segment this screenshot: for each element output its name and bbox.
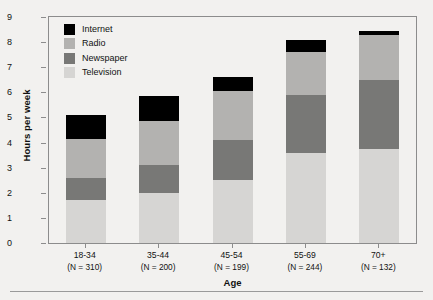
bar-segment-internet (139, 96, 179, 121)
x-tick-label-text: 70+ (333, 250, 423, 262)
bar-segment-radio (139, 121, 179, 165)
legend-label: Newspaper (82, 54, 128, 63)
y-tick-label: 7 (0, 63, 12, 72)
bar-stack (213, 77, 253, 243)
bar-segment-internet (66, 115, 106, 139)
y-tick-mark (41, 143, 46, 144)
bar-segment-television (286, 153, 326, 243)
y-tick-label: 6 (0, 88, 12, 97)
y-tick-mark (41, 243, 46, 244)
bar-segment-television (213, 180, 253, 243)
chart-legend: InternetRadioNewspaperTelevision (64, 22, 128, 80)
legend-item: Newspaper (64, 51, 128, 66)
bar-segment-newspaper (213, 140, 253, 180)
bar-segment-television (66, 200, 106, 243)
y-tick-mark (41, 17, 46, 18)
legend-label: Television (82, 68, 122, 77)
bar-segment-television (139, 193, 179, 243)
bar-segment-newspaper (66, 178, 106, 201)
y-tick-mark (41, 42, 46, 43)
bar-segment-television (359, 149, 399, 243)
x-tick-mark (305, 244, 306, 248)
y-tick-label: 4 (0, 139, 12, 148)
legend-swatch-icon (64, 38, 75, 49)
y-tick-mark (41, 92, 46, 93)
x-tick-label: 70+(N = 132) (333, 250, 423, 273)
bar-stack (359, 31, 399, 243)
bar-stack (66, 115, 106, 243)
bar-segment-radio (66, 139, 106, 178)
legend-swatch-icon (64, 67, 75, 78)
y-axis-title: Hours per week (21, 56, 32, 196)
bar-segment-radio (213, 91, 253, 140)
y-tick-label: 3 (0, 164, 12, 173)
y-tick-label: 1 (0, 214, 12, 223)
bar-segment-internet (213, 77, 253, 91)
legend-item: Television (64, 66, 128, 81)
x-tick-mark (158, 244, 159, 248)
x-tick-mark (85, 244, 86, 248)
bar-stack (286, 40, 326, 243)
bar-segment-internet (286, 40, 326, 53)
bar-segment-radio (286, 52, 326, 95)
y-tick-label: 2 (0, 189, 12, 198)
y-tick-label: 9 (0, 13, 12, 22)
y-tick-mark (41, 117, 46, 118)
legend-swatch-icon (64, 24, 75, 35)
legend-item: Internet (64, 22, 128, 37)
y-tick-mark (41, 218, 46, 219)
y-tick-label: 5 (0, 113, 12, 122)
x-axis-title: Age (48, 277, 417, 288)
bar-segment-radio (359, 35, 399, 80)
bar-segment-newspaper (139, 165, 179, 193)
x-tick-mark (232, 244, 233, 248)
y-tick-label: 8 (0, 38, 12, 47)
legend-label: Internet (82, 25, 113, 34)
bar-segment-newspaper (286, 95, 326, 153)
legend-item: Radio (64, 37, 128, 52)
bar-segment-newspaper (359, 80, 399, 149)
chart-figure: Hours per week 0123456789 18-34(N = 310)… (0, 0, 433, 300)
y-tick-label: 0 (0, 239, 12, 248)
y-tick-mark (41, 193, 46, 194)
footer-rule (10, 291, 423, 292)
y-tick-mark (41, 67, 46, 68)
y-tick-mark (41, 168, 46, 169)
legend-label: Radio (82, 39, 106, 48)
bar-stack (139, 96, 179, 243)
x-tick-mark (378, 244, 379, 248)
x-tick-sublabel-text: (N = 132) (333, 262, 423, 274)
legend-swatch-icon (64, 53, 75, 64)
